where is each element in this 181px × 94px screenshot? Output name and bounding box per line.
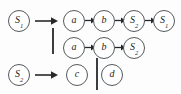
node-r2c1-a: a bbox=[63, 37, 85, 59]
node-r3c1-label: c bbox=[75, 69, 79, 82]
node-lhs-s1-label: S1 bbox=[15, 15, 23, 28]
diagram-canvas: S1 a b S2 S1 a b bbox=[0, 0, 181, 94]
production-arrow-s2 bbox=[35, 70, 59, 80]
node-r1c3-s2: S2 bbox=[123, 10, 145, 32]
node-r1c1-a: a bbox=[63, 10, 85, 32]
node-lhs-s2-label: S2 bbox=[15, 69, 23, 82]
alternation-bar-s1 bbox=[52, 28, 54, 54]
node-r2c2-b: b bbox=[93, 37, 115, 59]
node-r3c2-label: d bbox=[110, 69, 115, 82]
node-r1c4-s1: S1 bbox=[153, 10, 175, 32]
alternation-bar-s2 bbox=[96, 58, 98, 90]
node-r2c1-label: a bbox=[72, 42, 77, 55]
node-r3c1-c: c bbox=[66, 64, 88, 86]
node-lhs-s1: S1 bbox=[8, 10, 30, 32]
node-r3c2-d: d bbox=[101, 64, 123, 86]
node-r2c3-label: S2 bbox=[130, 42, 138, 55]
node-r1c4-label: S1 bbox=[160, 15, 168, 28]
node-r1c2-label: b bbox=[102, 15, 107, 28]
node-r2c3-s2: S2 bbox=[123, 37, 145, 59]
node-r1c3-label: S2 bbox=[130, 15, 138, 28]
production-arrow-s1 bbox=[35, 16, 59, 26]
node-r1c1-label: a bbox=[72, 15, 77, 28]
node-r1c2-b: b bbox=[93, 10, 115, 32]
node-lhs-s2: S2 bbox=[8, 64, 30, 86]
node-r2c2-label: b bbox=[102, 42, 107, 55]
